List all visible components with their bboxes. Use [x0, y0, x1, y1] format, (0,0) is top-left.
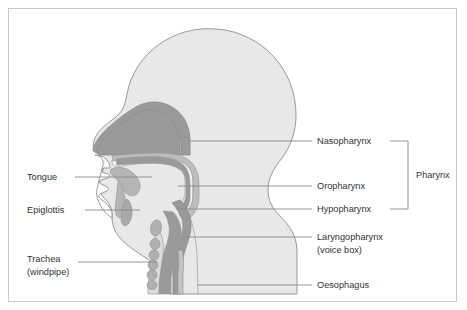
label-laryngopharynx-sub: (voice box): [317, 245, 362, 255]
tracheal-ring: [147, 281, 157, 290]
label-pharynx: Pharynx: [416, 170, 450, 180]
label-oesophagus: Oesophagus: [317, 280, 370, 290]
label-trachea-sub: (windpipe): [27, 267, 69, 277]
label-group-right: Nasopharynx Oropharynx Hypopharynx Laryn…: [317, 136, 383, 290]
oesophagus-group: [178, 250, 184, 294]
label-group-bracket: Pharynx: [416, 170, 450, 180]
label-epiglottis: Epiglottis: [27, 205, 65, 215]
label-trachea: Trachea: [27, 254, 61, 264]
pharynx-bracket: [390, 141, 408, 209]
anatomy-diagram: Nasopharynx Oropharynx Hypopharynx Laryn…: [0, 0, 467, 310]
bracket-path: [390, 141, 408, 209]
anatomy-figure: Nasopharynx Oropharynx Hypopharynx Laryn…: [0, 0, 467, 310]
label-nasopharynx: Nasopharynx: [317, 136, 372, 146]
label-tongue: Tongue: [27, 172, 57, 182]
tracheal-ring: [149, 250, 159, 260]
tracheal-ring: [147, 270, 157, 280]
label-oropharynx: Oropharynx: [317, 181, 365, 191]
tracheal-ring: [148, 260, 158, 270]
nasal-cavity-group: [93, 102, 190, 155]
label-group-left: Tongue Epiglottis Trachea (windpipe): [27, 172, 69, 277]
oesophagus: [178, 250, 184, 294]
label-hypopharynx: Hypopharynx: [317, 204, 372, 214]
label-laryngopharynx: Laryngopharynx: [317, 232, 383, 242]
